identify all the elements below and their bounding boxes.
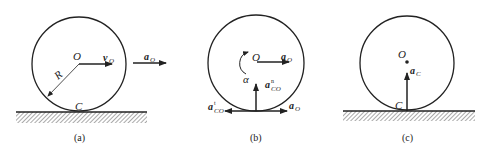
center-accel-label-base: a [281,51,286,62]
rolling-disk-diagram: O R C v O a O (a) O α a O a n CO a t CO … [0,0,489,150]
acceleration-label-base: a [144,51,149,62]
caption-b: (b) [250,132,262,144]
ground-hatch [343,111,475,121]
contact-accel-label-sub: C [416,70,421,78]
normal-accel-label-sub: CO [271,85,281,93]
center-accel-label-sub: O [287,56,292,64]
tangential-accel-label-base: a [208,101,213,112]
caption-a: (a) [74,132,85,144]
contact-accel-label-base: a [289,100,294,111]
acceleration-label-sub: O [150,56,155,64]
center-point [405,60,409,64]
center-label: O [398,48,406,60]
normal-accel-label-sup: n [271,78,274,84]
angular-accel-label: α [243,73,249,85]
tangential-accel-label-sup: t [214,100,216,106]
center-label: O [73,50,81,62]
ground-hatch [16,112,147,123]
radius-label: R [51,68,65,82]
tangential-accel-label-sub: CO [214,107,224,115]
velocity-label-base: v [103,52,108,63]
center-label: O [252,51,260,63]
radius-arrow [48,64,79,96]
caption-c: (c) [402,132,413,144]
velocity-label-sub: O [109,57,114,65]
normal-accel-label-base: a [265,79,270,90]
contact-label: C [75,100,83,112]
angular-accel-arc [240,52,248,74]
panel-a: O R C v O a O (a) [16,17,166,144]
contact-label: C [395,99,403,111]
contact-accel-label-sub: O [295,105,300,113]
contact-accel-label-base: a [410,65,415,76]
panel-b: O α a O a n CO a t CO a O (b) [208,15,304,144]
panel-c: O C a C (c) [343,16,475,144]
